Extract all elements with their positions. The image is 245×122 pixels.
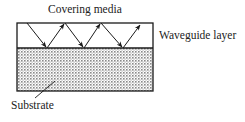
ray-arrow-3 [65,23,83,47]
ray-arrow-1 [27,23,46,47]
ray-arrow-4 [84,24,100,48]
ray-arrow-6 [123,25,140,48]
ray-arrow-2 [47,24,64,48]
light-ray-path [27,23,140,48]
substrate-region [17,48,153,91]
ray-arrow-5 [101,23,122,47]
waveguide-diagram [0,0,245,122]
